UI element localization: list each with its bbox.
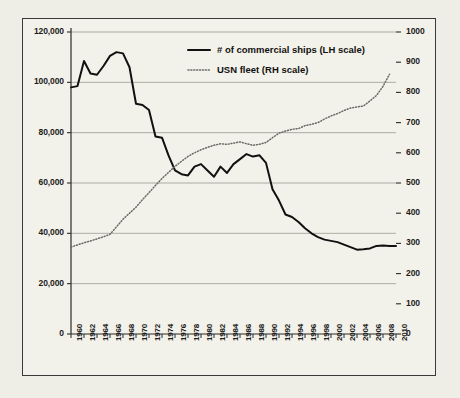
y-axis-right-label: 200 <box>406 268 420 278</box>
x-axis-tick-label: 1962 <box>88 324 97 341</box>
x-axis-tick-label: 1970 <box>140 324 149 341</box>
chart-figure: 020,00040,00060,00080,000100,000120,0000… <box>0 0 460 398</box>
legend-item-label: USN fleet (RH scale) <box>217 64 308 75</box>
y-axis-left-label: 20,000 <box>39 278 64 288</box>
y-axis-right-label: 100 <box>406 298 420 308</box>
x-axis-tick-label: 1974 <box>166 324 175 341</box>
x-axis-tick-label: 1988 <box>257 324 266 341</box>
y-axis-right-label: 300 <box>406 237 420 247</box>
x-axis-tick-label: 2010 <box>400 324 409 341</box>
x-axis-tick-label: 1960 <box>75 324 84 341</box>
x-axis-tick-label: 1994 <box>296 324 305 341</box>
x-axis-tick-label: 1982 <box>218 324 227 341</box>
y-axis-left-label: 120,000 <box>34 26 64 36</box>
x-axis-tick-label: 1964 <box>101 324 110 341</box>
x-axis-tick-label: 2008 <box>387 324 396 341</box>
data-series-group <box>71 52 396 250</box>
x-axis-tick-label: 1984 <box>231 324 240 341</box>
x-axis-tick-label: 1972 <box>153 324 162 341</box>
x-axis-tick-label: 1980 <box>205 324 214 341</box>
y-axis-left-label: 100,000 <box>34 76 64 86</box>
x-axis-tick-label: 1968 <box>127 324 136 341</box>
legend-item-label: # of commercial ships (LH scale) <box>217 44 365 55</box>
x-axis-tick-label: 1996 <box>309 324 318 341</box>
legend-markers-group <box>188 50 210 70</box>
y-axis-left-label: 40,000 <box>39 227 64 237</box>
x-axis-tick-label: 1976 <box>179 324 188 341</box>
x-axis-tick-label: 1986 <box>244 324 253 341</box>
y-axis-left-label: 0 <box>59 328 64 338</box>
x-axis-tick-label: 2006 <box>374 324 383 341</box>
series-line-commercial-ships <box>71 52 396 250</box>
series-line-usn-fleet <box>71 74 390 247</box>
x-axis-tick-label: 1990 <box>270 324 279 341</box>
x-axis-tick-label: 2004 <box>361 324 370 341</box>
x-axis-tick-label: 1992 <box>283 324 292 341</box>
y-axis-right-label: 600 <box>406 147 420 157</box>
y-axis-left-label: 80,000 <box>39 127 64 137</box>
y-axis-right-label: 1000 <box>406 26 425 36</box>
y-axis-right-label: 400 <box>406 207 420 217</box>
axis-ticks-group <box>67 32 401 338</box>
y-axis-right-label: 900 <box>406 56 420 66</box>
x-axis-tick-label: 1966 <box>114 324 123 341</box>
x-axis-tick-label: 1998 <box>322 324 331 341</box>
y-axis-left-label: 60,000 <box>39 177 64 187</box>
y-axis-right-label: 700 <box>406 117 420 127</box>
y-axis-right-label: 500 <box>406 177 420 187</box>
x-axis-tick-label: 2002 <box>348 324 357 341</box>
x-axis-tick-label: 2000 <box>335 324 344 341</box>
y-axis-right-label: 800 <box>406 86 420 96</box>
x-axis-tick-label: 1978 <box>192 324 201 341</box>
